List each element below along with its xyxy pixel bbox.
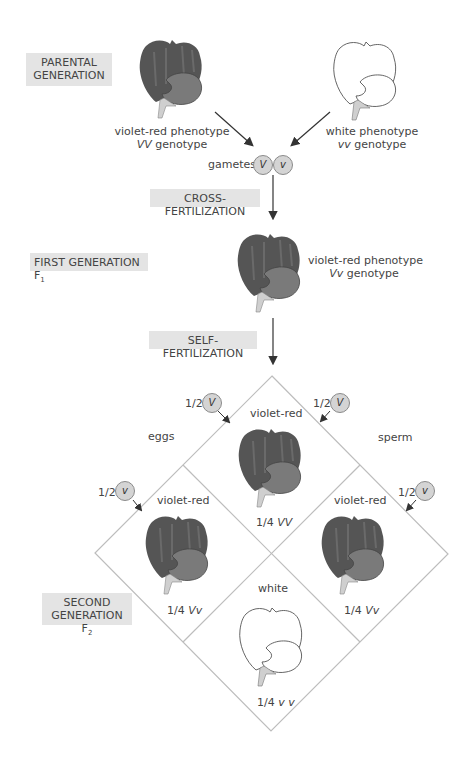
gametes-label: gametes bbox=[208, 158, 256, 171]
label-line: GENERATION bbox=[30, 69, 108, 82]
f1-violet-red-flower-icon bbox=[234, 230, 306, 316]
gamete-circle-v: v bbox=[273, 155, 293, 175]
left-parent-caption: violet-red phenotype VV genotype bbox=[112, 125, 232, 151]
self-fertilization-label: SELF-FERTILIZATION bbox=[149, 331, 257, 349]
egg-v-fraction: 1/2 bbox=[98, 486, 116, 499]
arrow-sperm-v bbox=[407, 500, 416, 510]
fraction-text: 1/4 bbox=[344, 604, 362, 617]
sperm-V-fraction: 1/2 bbox=[313, 397, 331, 410]
label-subscript: 2 bbox=[88, 629, 92, 637]
fraction-text: 1/4 bbox=[167, 604, 185, 617]
first-generation-label: FIRST GENERATION F1 bbox=[30, 253, 148, 271]
arrow-egg-v bbox=[133, 500, 141, 510]
phenotype-text: white phenotype bbox=[322, 125, 422, 138]
sperm-label: sperm bbox=[378, 431, 413, 444]
genotype-text: Vv bbox=[188, 604, 202, 617]
sperm-V-circle: V bbox=[330, 393, 350, 413]
genotype-allele: VV bbox=[137, 138, 152, 151]
white-flower-icon bbox=[330, 38, 402, 124]
f1-caption: violet-red phenotype Vv genotype bbox=[308, 254, 420, 280]
second-generation-label: SECOND GENERATION F2 bbox=[42, 593, 132, 625]
cell-top-violet-red-flower-icon bbox=[235, 425, 307, 511]
cell-bottom-white-flower-icon bbox=[236, 604, 308, 690]
arrow-egg-V bbox=[218, 411, 229, 422]
cell-right-phenotype: violet-red bbox=[334, 494, 386, 507]
genotype-text: VV bbox=[277, 516, 292, 529]
right-parent-caption: white phenotype vv genotype bbox=[322, 125, 422, 151]
phenotype-text: violet-red phenotype bbox=[112, 125, 232, 138]
label-subscript: 1 bbox=[40, 276, 44, 284]
cell-left-violet-red-flower-icon bbox=[142, 512, 214, 598]
fraction-text: 1/4 bbox=[256, 516, 274, 529]
egg-V-circle: V bbox=[202, 393, 222, 413]
genotype-text: v v bbox=[278, 696, 295, 709]
cell-left-genotype: 1/4 Vv bbox=[167, 604, 202, 617]
cell-left-phenotype: violet-red bbox=[157, 494, 209, 507]
cell-bottom-phenotype: white bbox=[258, 582, 288, 595]
cell-bottom-genotype: 1/4 v v bbox=[257, 696, 295, 709]
fraction-text: 1/4 bbox=[257, 696, 275, 709]
label-line: PARENTAL bbox=[30, 56, 108, 69]
sperm-v-circle: v bbox=[415, 481, 435, 501]
violet-red-flower-icon bbox=[136, 36, 208, 122]
egg-v-circle: v bbox=[115, 481, 135, 501]
arrow-sperm-V bbox=[321, 411, 330, 421]
phenotype-text: violet-red phenotype bbox=[308, 254, 420, 267]
genotype-allele: vv bbox=[338, 138, 351, 151]
genotype-word: genotype bbox=[343, 267, 399, 280]
genotype-word: genotype bbox=[152, 138, 208, 151]
genotype-word: genotype bbox=[351, 138, 407, 151]
genotype-allele: Vv bbox=[329, 267, 343, 280]
cell-right-violet-red-flower-icon bbox=[318, 512, 390, 598]
label-line: SECOND bbox=[46, 596, 128, 609]
cell-top-phenotype: violet-red bbox=[250, 407, 302, 420]
cell-right-genotype: 1/4 Vv bbox=[344, 604, 379, 617]
eggs-label: eggs bbox=[148, 430, 174, 443]
cell-top-genotype: 1/4 VV bbox=[256, 516, 292, 529]
genotype-text: Vv bbox=[365, 604, 379, 617]
gamete-circle-V: V bbox=[253, 155, 273, 175]
sperm-v-fraction: 1/2 bbox=[398, 486, 416, 499]
parental-generation-label: PARENTAL GENERATION bbox=[26, 53, 112, 86]
egg-V-fraction: 1/2 bbox=[185, 397, 203, 410]
cross-fertilization-label: CROSS-FERTILIZATION bbox=[150, 189, 260, 207]
